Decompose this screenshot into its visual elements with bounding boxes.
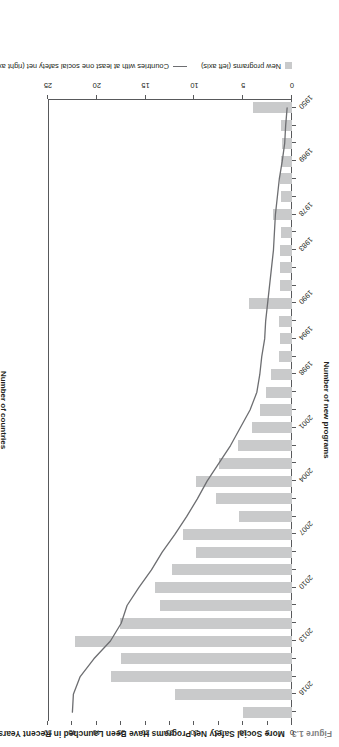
left-axis-title: Number of new programs xyxy=(322,362,331,459)
category-tick xyxy=(292,427,296,428)
category-tick xyxy=(292,533,296,534)
category-tick xyxy=(292,178,296,179)
legend: New programs (left axis)Countries with a… xyxy=(12,61,292,71)
category-tick xyxy=(292,285,296,286)
category-label: 2004 xyxy=(297,466,315,484)
right-axis-tick xyxy=(145,721,146,725)
figure-container: Figure 1.3 More Social Safety Net Progra… xyxy=(0,0,339,747)
left-axis-tick-label: 20 xyxy=(93,81,101,90)
left-axis-tick-label: 25 xyxy=(44,81,52,90)
right-axis-tick xyxy=(120,721,121,725)
category-tick xyxy=(292,267,296,268)
right-axis-tick xyxy=(96,721,97,725)
category-tick xyxy=(292,196,296,197)
category-tick xyxy=(292,214,296,215)
right-axis-tick-label: 50 xyxy=(44,728,52,737)
category-tick xyxy=(292,587,296,588)
right-axis-tick-label: 35 xyxy=(117,728,125,737)
category-label: 1978 xyxy=(297,200,315,218)
category-label: 2010 xyxy=(297,573,315,591)
category-tick xyxy=(292,462,296,463)
legend-bar-label: New programs (left axis) xyxy=(201,62,281,71)
right-axis-tick-label: 25 xyxy=(166,728,174,737)
legend-bar-swatch xyxy=(285,62,292,69)
category-tick xyxy=(292,391,296,392)
category-tick xyxy=(292,356,296,357)
right-axis-tick-label: 10 xyxy=(239,728,247,737)
category-label: 1994 xyxy=(297,324,315,342)
category-tick xyxy=(292,373,296,374)
right-axis-tick xyxy=(291,721,292,725)
right-axis-tick xyxy=(71,721,72,725)
category-label: 2013 xyxy=(297,626,315,644)
category-label: 1983 xyxy=(297,235,315,253)
category-tick xyxy=(292,107,296,108)
category-tick xyxy=(292,658,296,659)
category-label: 1998 xyxy=(297,360,315,378)
category-tick xyxy=(292,338,296,339)
legend-line-swatch xyxy=(173,66,187,67)
right-axis-tick xyxy=(193,721,194,725)
left-axis-tick-label: 10 xyxy=(190,81,198,90)
category-tick xyxy=(292,569,296,570)
plot-area: 0510152025 05101520253035404550 19501969… xyxy=(48,99,292,721)
category-tick xyxy=(292,640,296,641)
right-axis-tick-label: 0 xyxy=(290,728,294,737)
category-tick xyxy=(292,693,296,694)
right-axis-tick xyxy=(267,721,268,725)
category-tick xyxy=(292,320,296,321)
category-tick xyxy=(292,605,296,606)
category-tick xyxy=(292,622,296,623)
category-tick xyxy=(292,676,296,677)
category-tick xyxy=(292,516,296,517)
category-tick xyxy=(292,445,296,446)
figure-number: Figure 1.3 xyxy=(292,729,332,739)
right-axis-tick-label: 15 xyxy=(215,728,223,737)
right-axis-title: Number of countries xyxy=(0,371,8,449)
category-tick xyxy=(292,302,296,303)
category-tick xyxy=(292,249,296,250)
right-axis-tick xyxy=(242,721,243,725)
category-tick xyxy=(292,142,296,143)
right-axis-tick-label: 40 xyxy=(93,728,101,737)
right-axis-tick-label: 20 xyxy=(190,728,198,737)
category-tick xyxy=(292,480,296,481)
line-series xyxy=(48,99,292,721)
left-axis-tick-label: 0 xyxy=(290,81,294,90)
category-label: 1950 xyxy=(297,93,315,111)
right-axis-tick-label: 45 xyxy=(68,728,76,737)
category-label: 2001 xyxy=(297,413,315,431)
right-axis-tick xyxy=(169,721,170,725)
legend-line-label: Countries with at least one social safet… xyxy=(0,62,169,71)
category-label: 1969 xyxy=(297,146,315,164)
category-tick xyxy=(292,231,296,232)
left-axis-tick-label: 15 xyxy=(141,81,149,90)
right-axis-tick xyxy=(47,721,48,725)
category-label: 1990 xyxy=(297,289,315,307)
category-tick xyxy=(292,125,296,126)
category-tick xyxy=(292,551,296,552)
right-axis-tick-label: 5 xyxy=(266,728,270,737)
category-label: 2016 xyxy=(297,680,315,698)
category-label: 2007 xyxy=(297,520,315,538)
right-axis-tick xyxy=(218,721,219,725)
right-axis-tick-label: 30 xyxy=(141,728,149,737)
category-tick xyxy=(292,711,296,712)
left-axis-tick-label: 5 xyxy=(241,81,245,90)
category-tick xyxy=(292,160,296,161)
category-tick xyxy=(292,409,296,410)
category-tick xyxy=(292,498,296,499)
